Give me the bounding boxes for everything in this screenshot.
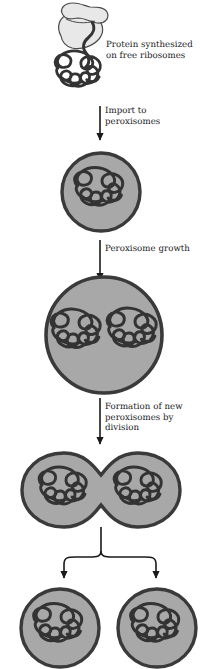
stage-enlarged-peroxisome [46, 277, 162, 393]
protein-tangle-nascent [55, 51, 100, 86]
peroxisome-membrane-small [62, 153, 140, 231]
fork-branch-right [101, 551, 156, 578]
label-synthesis-box: Protein synthesized on free ribosomes [106, 40, 213, 66]
label-import-box: Import to peroxisomes [105, 106, 205, 132]
fork-branch-left [64, 551, 101, 578]
stage-daughter-peroxisomes [21, 589, 196, 667]
label-division: Formation of new peroxisomes by division [105, 402, 209, 434]
peroxisome-membrane-daughter-right [118, 589, 196, 667]
label-growth: Peroxisome growth [105, 244, 209, 255]
label-growth-box: Peroxisome growth [105, 244, 209, 260]
label-synthesis: Protein synthesized on free ribosomes [106, 40, 213, 61]
stage-dividing-peroxisome [22, 453, 180, 527]
peroxisome-biogenesis-diagram: Protein synthesized on free ribosomes Im… [0, 0, 213, 669]
peroxisome-membrane-daughter-left [21, 589, 99, 667]
label-division-box: Formation of new peroxisomes by division [105, 402, 209, 440]
branching-arrows [64, 527, 156, 578]
label-import: Import to peroxisomes [105, 106, 205, 127]
stage-free-ribosome [55, 3, 108, 86]
stage-small-peroxisome [62, 153, 140, 231]
